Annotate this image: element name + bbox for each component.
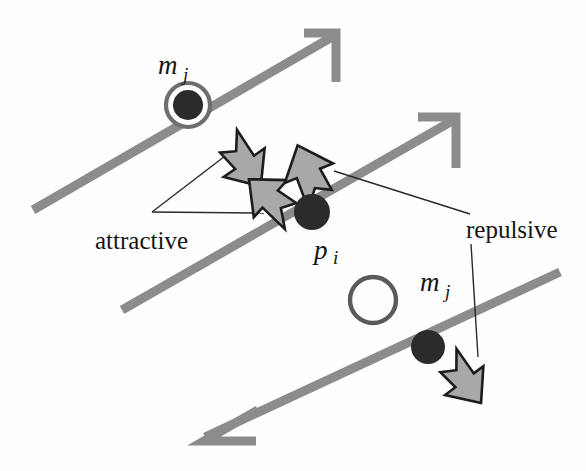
m-j-lower-dot <box>411 330 445 364</box>
p-i-label-base: p <box>312 235 328 265</box>
m-j-upper-node <box>166 83 210 127</box>
m-j-lower-label-base: m <box>420 267 440 297</box>
m-j-upper-dot <box>173 90 203 120</box>
p-i-center-dot <box>294 194 330 230</box>
m-j-upper-label-base: m <box>158 50 178 80</box>
attractive-leader-lower <box>152 212 264 213</box>
repulsive-label: repulsive <box>466 216 558 243</box>
attractive-label: attractive <box>95 227 188 254</box>
figure-root: m j p i m j attractive repulsive <box>0 0 586 471</box>
force-diagram: m j p i m j attractive repulsive <box>0 0 586 471</box>
p-i-label-sub: i <box>333 247 338 268</box>
